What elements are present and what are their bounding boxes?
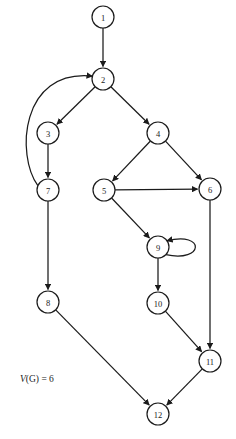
graph-node-5[interactable]: 5 <box>93 179 115 201</box>
cyclomatic-complexity-text: V(G) = 6 <box>20 374 54 385</box>
edge-2-to-4 <box>111 87 149 125</box>
node-label-7: 7 <box>46 186 50 196</box>
node-label-11: 11 <box>206 357 214 367</box>
node-label-6: 6 <box>208 185 212 195</box>
edge-5-to-9 <box>112 198 150 238</box>
graph-node-11[interactable]: 11 <box>199 350 221 372</box>
cyclomatic-complexity-annotation: V(G) = 6 <box>20 374 54 385</box>
node-label-3: 3 <box>46 129 50 139</box>
graph-node-2[interactable]: 2 <box>92 68 114 90</box>
graph-node-3[interactable]: 3 <box>37 122 59 144</box>
edge-5-to-6 <box>115 189 198 190</box>
graph-node-1[interactable]: 1 <box>92 6 114 28</box>
graph-node-6[interactable]: 6 <box>199 178 221 200</box>
edge-4-to-5 <box>113 141 151 181</box>
node-label-5: 5 <box>102 186 106 196</box>
control-flow-graph-canvas: 123456789101112 V(G) = 6 <box>0 0 236 439</box>
graph-node-8[interactable]: 8 <box>37 291 59 313</box>
node-label-12: 12 <box>154 410 163 420</box>
edge-11-to-12 <box>167 369 203 405</box>
graph-node-9[interactable]: 9 <box>147 236 169 258</box>
control-flow-graph-figure: 123456789101112 V(G) = 6 <box>0 0 236 439</box>
node-label-2: 2 <box>101 75 105 85</box>
graph-node-10[interactable]: 10 <box>147 292 169 314</box>
edge-9-to-9 <box>166 239 195 256</box>
cyclomatic-complexity-value: (G) = 6 <box>26 374 54 385</box>
edge-2-to-3 <box>57 87 95 125</box>
node-label-8: 8 <box>46 298 50 308</box>
node-label-10: 10 <box>154 299 163 309</box>
node-label-1: 1 <box>101 13 105 23</box>
edge-10-to-11 <box>165 311 201 352</box>
edge-8-to-12 <box>56 310 150 405</box>
edge-4-to-6 <box>165 141 201 180</box>
graph-node-4[interactable]: 4 <box>147 122 169 144</box>
graph-node-7[interactable]: 7 <box>37 179 59 201</box>
graph-node-12[interactable]: 12 <box>147 403 169 425</box>
edge-layer <box>26 28 210 405</box>
node-label-9: 9 <box>156 243 160 253</box>
